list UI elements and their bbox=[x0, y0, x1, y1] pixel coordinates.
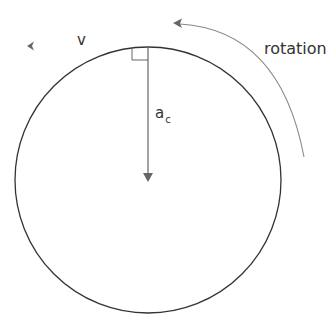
velocity-arrowhead-icon bbox=[27, 42, 34, 51]
arrowhead-icon bbox=[143, 173, 153, 182]
acceleration-arrow bbox=[143, 47, 153, 182]
acceleration-label: ac bbox=[155, 104, 171, 125]
rotation-label: rotation bbox=[264, 39, 327, 58]
circular-motion-diagram: v ac rotation bbox=[0, 0, 331, 327]
rotation-arrowhead-icon bbox=[173, 19, 182, 29]
velocity-label: v bbox=[77, 31, 86, 49]
right-angle-marker bbox=[132, 47, 148, 60]
